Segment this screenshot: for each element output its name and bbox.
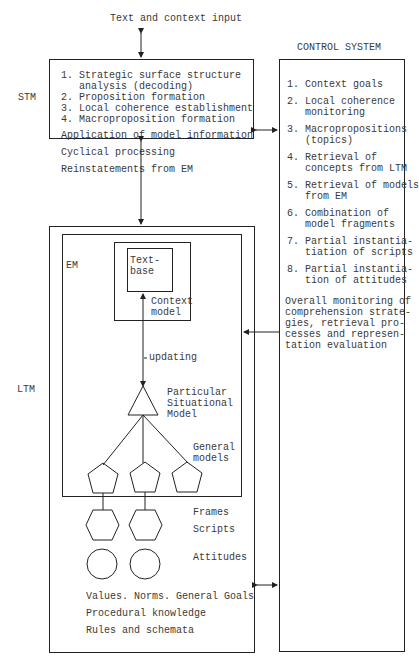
attitude-circle-1 bbox=[87, 549, 117, 579]
frame-hexagon-1 bbox=[86, 510, 119, 540]
general-model-pentagon-2 bbox=[130, 462, 160, 492]
diagram-connectors bbox=[0, 0, 419, 660]
general-model-pentagon-3 bbox=[172, 462, 202, 492]
general-model-pentagon-1 bbox=[88, 463, 118, 493]
attitude-circle-2 bbox=[130, 549, 160, 579]
frame-hexagon-2 bbox=[129, 510, 162, 540]
situational-model-triangle bbox=[128, 386, 158, 415]
